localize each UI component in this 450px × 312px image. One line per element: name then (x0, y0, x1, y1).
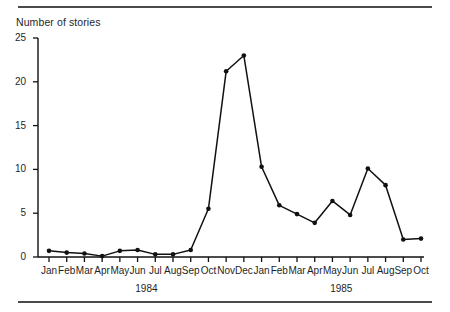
y-tick-marks (33, 38, 38, 257)
x-group-label: 1985 (321, 284, 361, 294)
data-point-marker (401, 237, 406, 242)
data-point-markers (47, 53, 424, 258)
data-point-marker (348, 213, 353, 218)
data-point-marker (135, 248, 140, 253)
y-tick-label: 0 (4, 252, 26, 262)
chart-figure: Number of stories 0510152025 JanFebMarAp… (0, 0, 450, 312)
data-point-marker (419, 236, 424, 241)
data-series-line (49, 56, 421, 257)
data-point-marker (82, 251, 87, 256)
data-point-marker (206, 207, 211, 212)
data-point-marker (64, 250, 69, 255)
y-tick-label: 5 (4, 208, 26, 218)
data-point-marker (383, 183, 388, 188)
data-point-marker (312, 221, 317, 226)
data-point-marker (224, 69, 229, 74)
data-point-marker (171, 252, 176, 257)
y-tick-label: 15 (4, 121, 26, 131)
data-point-marker (242, 53, 247, 58)
data-point-marker (366, 166, 371, 171)
x-tick-marks (49, 257, 421, 262)
x-tick-label: Oct (407, 266, 435, 276)
y-tick-label: 10 (4, 164, 26, 174)
data-point-marker (153, 252, 158, 257)
data-point-marker (188, 248, 193, 253)
data-point-marker (118, 249, 123, 254)
y-tick-label: 20 (4, 77, 26, 87)
x-group-label: 1984 (126, 284, 166, 294)
data-point-marker (295, 212, 300, 217)
data-point-marker (259, 164, 264, 169)
y-tick-label: 25 (4, 33, 26, 43)
data-point-marker (330, 199, 335, 204)
data-point-marker (47, 249, 52, 254)
data-point-marker (100, 254, 105, 259)
data-point-marker (277, 203, 282, 208)
axes (38, 38, 424, 257)
